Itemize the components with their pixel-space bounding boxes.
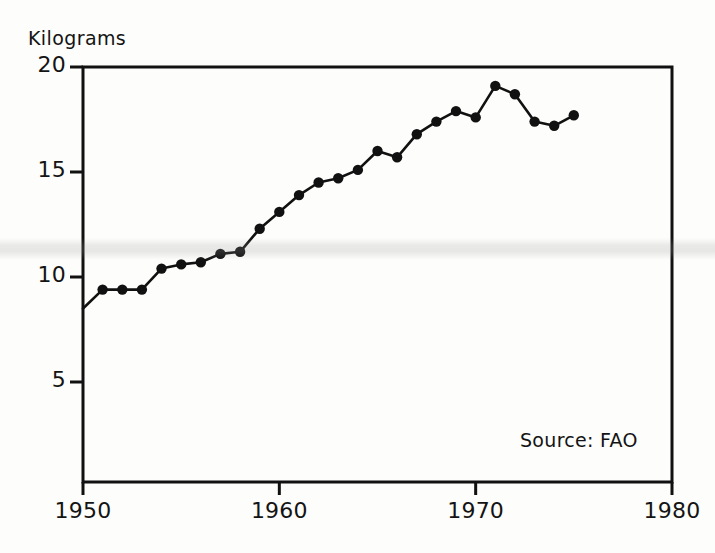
- data-point-1958: [235, 247, 245, 257]
- data-point-1969: [451, 106, 461, 116]
- x-tick-label-1980: 1980: [627, 498, 715, 523]
- data-point-1968: [431, 116, 441, 126]
- y-tick-label-5: 5: [14, 367, 66, 392]
- data-point-1954: [156, 263, 166, 273]
- data-point-1962: [313, 177, 323, 187]
- axis-frame: [83, 67, 672, 482]
- data-point-1973: [529, 116, 539, 126]
- data-point-markers: [97, 81, 579, 295]
- data-point-1972: [510, 89, 520, 99]
- data-point-1975: [569, 110, 579, 120]
- data-point-1965: [372, 146, 382, 156]
- x-tick-label-1970: 1970: [431, 498, 521, 523]
- data-point-1960: [274, 207, 284, 217]
- data-point-1974: [549, 121, 559, 131]
- y-tick-label-10: 10: [14, 262, 66, 287]
- data-point-1970: [471, 112, 481, 122]
- y-tick-label-20: 20: [14, 52, 66, 77]
- data-point-1955: [176, 259, 186, 269]
- y-axis-title: Kilograms: [28, 27, 126, 49]
- data-point-1967: [412, 129, 422, 139]
- data-point-1964: [353, 165, 363, 175]
- source-annotation: Source: FAO: [520, 429, 638, 451]
- data-point-1953: [137, 284, 147, 294]
- data-point-1959: [255, 224, 265, 234]
- data-point-1961: [294, 190, 304, 200]
- data-point-1957: [215, 249, 225, 259]
- data-point-1952: [117, 284, 127, 294]
- y-tick-label-15: 15: [14, 157, 66, 182]
- data-point-1951: [97, 284, 107, 294]
- data-point-1971: [490, 81, 500, 91]
- data-point-1963: [333, 173, 343, 183]
- chart-figure: Kilograms Source: FAO 2015105 1950196019…: [0, 0, 715, 553]
- data-point-1956: [196, 257, 206, 267]
- x-tick-label-1960: 1960: [234, 498, 324, 523]
- data-point-1966: [392, 152, 402, 162]
- x-tick-label-1950: 1950: [38, 498, 128, 523]
- chart-plot-area: [0, 0, 715, 553]
- data-series-line: [83, 81, 579, 309]
